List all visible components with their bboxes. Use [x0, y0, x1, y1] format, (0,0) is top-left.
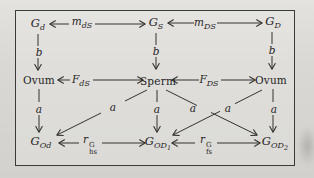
edge-label-a-ovum-gOD1: a [225, 103, 231, 114]
edge-label-b-middle: b [153, 46, 160, 57]
edge-label-a-sperm-gOd: a [110, 102, 116, 113]
edge-label-b-right: b [269, 45, 276, 56]
node-ovum-left: Ovum [23, 75, 55, 86]
edge-label-F-dS: FdS [72, 70, 90, 88]
node-g-s: GS [149, 17, 164, 31]
figure-canvas: Gd mdS GS mDS GD b b b Ovum FdS Sperm FD… [0, 0, 314, 178]
edge-label-b-left: b [36, 47, 43, 58]
edge-label-m-dS: mdS [72, 12, 93, 30]
edge-label-a-ovum-right: a [271, 104, 277, 115]
node-ovum-right: Ovum [255, 75, 287, 86]
edge-label-F-DS: FDS [199, 70, 218, 88]
node-g-D: GD [265, 16, 281, 30]
edge-label-r-fs: rGfs [200, 130, 212, 155]
edge-label-a-sperm-gOD1: a [154, 104, 160, 115]
node-g-Od: GOd [31, 136, 52, 150]
edge-a-sperm-to-gOd-diagonal [57, 90, 147, 135]
edge-label-a-sperm-gOD2: a [190, 103, 196, 114]
scan-smudge-artifact [298, 127, 314, 165]
edge-a-ovum-to-gOD1-diagonal [173, 90, 262, 135]
node-sperm: Sperm [140, 76, 176, 87]
edge-label-r-hs: rGhs [83, 130, 97, 155]
node-g-d: Gd [31, 18, 45, 32]
edge-label-a-ovum-left: a [36, 104, 42, 115]
node-g-OD2: GOD2 [262, 136, 288, 152]
edge-a-sperm-to-gOD2-diagonal [166, 90, 257, 135]
node-g-OD1: GOD1 [145, 136, 171, 152]
edge-label-m-DS: mDS [194, 13, 216, 31]
